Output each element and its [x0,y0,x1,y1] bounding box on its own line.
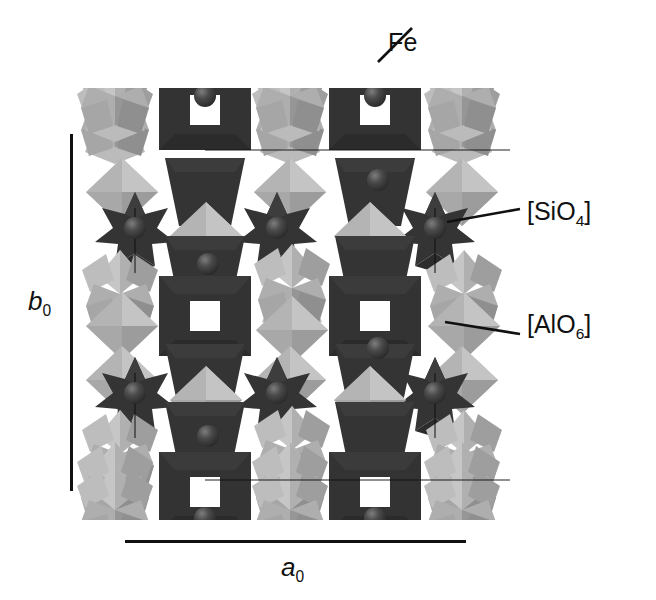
label-fe: Fe [388,28,418,57]
axis-label-b0: b0 [28,286,51,320]
axis-label-a0: a0 [281,552,304,586]
b-axis-bracket [70,134,73,491]
a-axis-bracket [125,540,466,543]
crystal-structure-figure: Fe [SiO4] [AlO6] b0 a0 [0,0,656,600]
label-alo6: [AlO6] [527,310,591,343]
crystal-lattice-render [70,88,510,520]
label-sio4: [SiO4] [527,197,591,230]
